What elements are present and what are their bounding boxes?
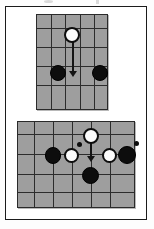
white-stone	[64, 27, 80, 43]
scan-speckle	[96, 0, 99, 4]
capture-marker-dot	[77, 142, 82, 147]
white-stone	[83, 128, 99, 144]
lower-board	[17, 121, 135, 208]
grid-line-horizontal	[18, 174, 134, 175]
black-stone	[118, 146, 136, 164]
black-stone	[50, 65, 66, 81]
black-stone	[92, 65, 108, 81]
grid-line-horizontal	[37, 85, 107, 86]
capture-marker-dot	[134, 141, 139, 146]
figure-title: Two board-game move diagrams	[0, 0, 1, 1]
scan-speckle	[44, 0, 53, 3]
white-stone	[102, 148, 118, 164]
diagram-figure: Two board-game move diagrams	[0, 0, 154, 229]
upper-board	[36, 14, 108, 110]
grid-line-horizontal	[18, 134, 134, 135]
black-stone	[82, 167, 99, 184]
black-stone	[45, 147, 62, 164]
grid-line-horizontal	[18, 192, 134, 193]
white-stone	[64, 148, 80, 164]
